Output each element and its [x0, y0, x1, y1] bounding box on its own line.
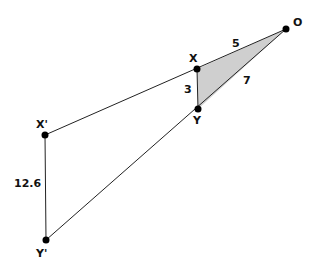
point-o	[283, 26, 290, 33]
length-xprime-yprime: 12.6	[14, 177, 41, 190]
point-x	[194, 66, 201, 73]
label-x: X	[189, 52, 198, 65]
label-y: Y	[192, 114, 202, 127]
point-xprime	[42, 132, 49, 139]
label-o: O	[293, 16, 302, 29]
length-xy: 3	[184, 83, 192, 96]
segment-o-yprime	[46, 29, 286, 240]
label-xprime: X'	[36, 118, 48, 131]
segment-xprime-yprime	[45, 135, 46, 240]
length-ox: 5	[232, 37, 240, 50]
similar-triangles-diagram: O X Y X' Y' 5 7 3 12.6	[0, 0, 316, 266]
label-yprime: Y'	[35, 247, 47, 260]
diagram-canvas: O X Y X' Y' 5 7 3 12.6	[0, 0, 316, 266]
point-y	[195, 106, 202, 113]
point-yprime	[43, 237, 50, 244]
length-oy: 7	[243, 74, 251, 87]
